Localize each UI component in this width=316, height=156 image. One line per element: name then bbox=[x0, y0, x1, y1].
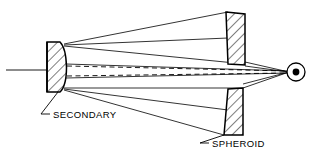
focal-point-dot bbox=[293, 69, 300, 76]
spheroid-upper-segment bbox=[222, 9, 250, 69]
virtual-ray-upper bbox=[67, 66, 288, 71]
ray-upper-low-edge bbox=[64, 46, 245, 64]
focal-point bbox=[287, 63, 305, 81]
secondary-label: SECONDARY bbox=[53, 109, 117, 120]
spheroid-label-group: SPHEROID bbox=[200, 135, 265, 149]
spheroid-lower-segment bbox=[220, 85, 248, 139]
spheroid-label: SPHEROID bbox=[212, 138, 265, 149]
ray-focus-from-lower-a bbox=[243, 72, 289, 88]
ray-lower-inner bbox=[64, 89, 228, 110]
secondary-label-group: SECONDARY bbox=[41, 92, 117, 120]
optical-ray-diagram: SECONDARY SPHEROID bbox=[0, 0, 316, 156]
diagram-canvas: SECONDARY SPHEROID bbox=[0, 0, 316, 156]
